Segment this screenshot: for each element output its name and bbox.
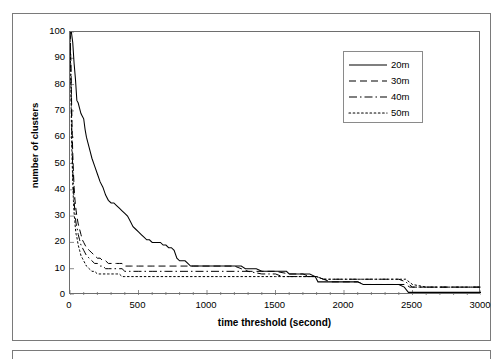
x-tick-label: 2000: [321, 299, 365, 310]
secondary-frame: [12, 350, 491, 359]
legend-line-swatch-dotted: [348, 108, 388, 118]
legend-line-swatch-dashdot: [348, 92, 388, 102]
y-tick-label: 40: [31, 184, 65, 194]
legend-item-50m: 50m: [344, 105, 422, 121]
x-tick-label: 3000: [458, 299, 502, 310]
x-axis-tick-labels: 050010001500200025003000: [69, 299, 480, 313]
figure-frame: number of clusters 010203040506070809010…: [12, 13, 491, 341]
y-tick-label: 60: [31, 131, 65, 141]
legend-item-30m: 30m: [344, 73, 422, 89]
chart-area: number of clusters 010203040506070809010…: [13, 14, 492, 342]
legend-label: 20m: [391, 60, 409, 70]
x-tick-label: 500: [116, 299, 160, 310]
legend-label: 30m: [391, 76, 409, 86]
y-tick-label: 10: [31, 263, 65, 273]
y-tick-label: 50: [31, 158, 65, 168]
legend-label: 40m: [391, 92, 409, 102]
y-tick-label: 20: [31, 236, 65, 246]
legend-line-swatch-dashed: [348, 76, 388, 86]
y-tick-label: 90: [31, 52, 65, 62]
x-axis-title: time threshold (second): [69, 317, 480, 329]
legend-line-swatch-solid: [348, 60, 388, 70]
x-tick-label: 0: [47, 299, 91, 310]
x-tick-label: 2500: [390, 299, 434, 310]
legend-item-20m: 20m: [344, 57, 422, 73]
legend-item-40m: 40m: [344, 89, 422, 105]
y-tick-label: 30: [31, 210, 65, 220]
legend-label: 50m: [391, 108, 409, 118]
y-tick-label: 0: [31, 289, 65, 299]
x-tick-label: 1500: [253, 299, 297, 310]
chart-legend: 20m30m40m50m: [343, 51, 423, 123]
y-tick-label: 80: [31, 79, 65, 89]
y-tick-label: 100: [31, 26, 65, 36]
y-axis-tick-labels: 0102030405060708090100: [29, 31, 65, 294]
y-tick-label: 70: [31, 105, 65, 115]
x-tick-label: 1000: [184, 299, 228, 310]
